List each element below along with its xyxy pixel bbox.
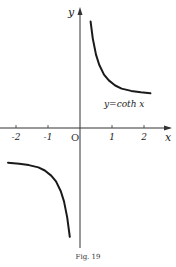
- x-tick-label: 1: [109, 132, 115, 142]
- coth-figure: -2-112 y x O y=coth x Fig. 19: [0, 0, 176, 267]
- axes: [0, 7, 172, 248]
- figure-caption: Fig. 19: [76, 253, 101, 261]
- x-axis-arrow-icon: [164, 126, 172, 131]
- y-axis-arrow-icon: [78, 7, 83, 15]
- y-axis-label: y: [67, 6, 75, 19]
- x-tick-label: -1: [44, 132, 53, 142]
- coth-curve-branch: [8, 163, 70, 237]
- function-label: y=coth x: [103, 99, 144, 109]
- x-tick-label: -2: [12, 132, 21, 142]
- curves: [8, 22, 150, 237]
- x-tick-label: 2: [140, 132, 147, 142]
- origin-label: O: [71, 132, 79, 143]
- x-axis-label: x: [165, 131, 172, 144]
- coth-curve-branch: [91, 22, 151, 94]
